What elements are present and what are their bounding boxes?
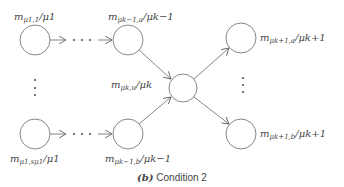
figure-caption: (b) Condition 2 xyxy=(0,172,344,183)
label-bottom-right: mμk+1,b/μk+1 xyxy=(260,129,326,141)
node-bottom-mid xyxy=(113,119,143,149)
edge-center-to-top-right xyxy=(194,48,229,79)
edge-bottom-mid-to-center xyxy=(139,97,171,124)
node-top-left xyxy=(20,25,50,55)
caption-tag: (b) xyxy=(137,172,153,183)
node-bottom-right xyxy=(226,119,256,149)
node-top-right xyxy=(226,23,256,53)
node-bottom-left xyxy=(20,119,50,149)
label-top-mid: mμk−1,a/μk−1 xyxy=(108,12,174,24)
caption-text: Condition 2 xyxy=(156,172,207,183)
label-top-right: mμk+1,a/μk+1 xyxy=(260,33,326,45)
label-center: mμk,u/μk xyxy=(111,80,152,92)
label-bottom-left: mμ1,sμ1/μ1 xyxy=(10,154,60,166)
node-center xyxy=(169,74,197,102)
edge-top-mid-to-center xyxy=(139,50,171,79)
label-top-left: mμ1,1/μ1 xyxy=(14,12,55,24)
edge-center-to-bottom-right xyxy=(194,97,229,124)
node-top-mid xyxy=(113,25,143,55)
label-bottom-mid: mμk−1,b/μk−1 xyxy=(105,154,171,166)
